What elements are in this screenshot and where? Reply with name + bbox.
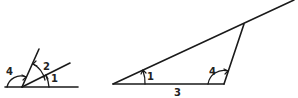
triangle-long-side-extended (113, 0, 294, 84)
arc-angle-1-right (143, 71, 145, 84)
label-side-3: 3 (174, 87, 181, 98)
label-angle-4-right: 4 (209, 66, 216, 77)
right-figure-triangle (113, 0, 294, 84)
label-angle-1-left: 1 (51, 73, 58, 84)
label-angle-2: 2 (43, 61, 50, 72)
triangle-right-side (224, 24, 244, 84)
label-angle-1-right: 1 (147, 71, 154, 82)
left-steep-ray (22, 49, 39, 87)
left-figure-angles-on-line (5, 49, 78, 87)
label-angle-4-left: 4 (6, 66, 13, 77)
geometry-diagram: 4 2 1 1 4 3 (0, 0, 298, 98)
